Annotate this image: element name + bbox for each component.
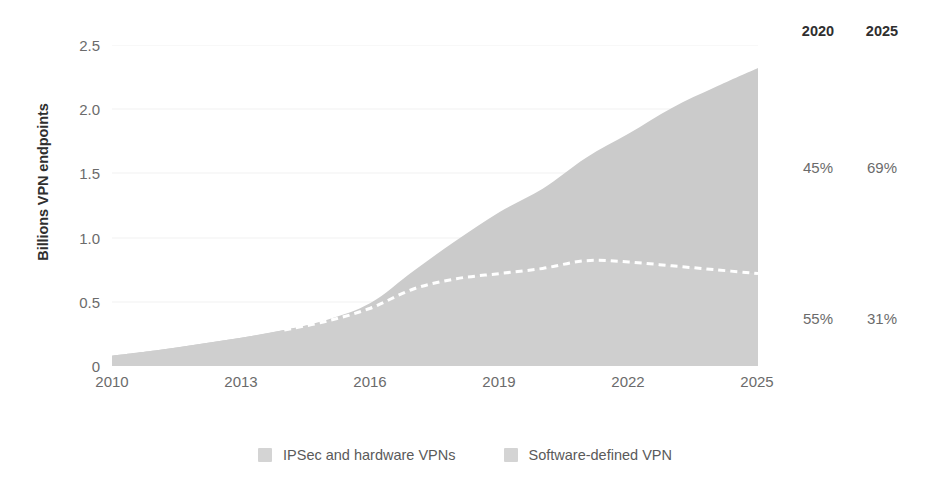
y-tick-label-2-0: 2.0 <box>56 102 100 117</box>
chart-canvas <box>112 45 758 366</box>
legend-item-ipsec-and-hardware-vpns[interactable]: IPSec and hardware VPNs <box>258 447 455 463</box>
chart-legend: IPSec and hardware VPNs Software-defined… <box>0 440 930 470</box>
share-table-header-2020: 2020 <box>792 23 844 39</box>
legend-item-software-defined-vpn[interactable]: Software-defined VPN <box>504 447 672 463</box>
share-value-software-defined-2020: 45% <box>792 159 844 176</box>
x-tick-label-2019: 2019 <box>482 374 515 389</box>
x-tick-label-2013: 2013 <box>224 374 257 389</box>
y-axis-title: Billions VPN endpoints <box>35 92 51 272</box>
legend-label-ipsec: IPSec and hardware VPNs <box>283 447 455 463</box>
x-tick-label-2025: 2025 <box>740 374 773 389</box>
share-value-ipsec-hardware-2025: 31% <box>856 310 908 327</box>
y-axis-tick-labels: 2.5 2.0 1.5 1.0 0.5 0 <box>56 0 100 490</box>
y-tick-label-1-5: 1.5 <box>56 166 100 181</box>
x-tick-label-2016: 2016 <box>353 374 386 389</box>
y-tick-label-0-5: 0.5 <box>56 295 100 310</box>
stacked-area-chart-figure: Billions VPN endpoints 2.5 2.0 1.5 1.0 0… <box>0 0 930 490</box>
share-value-ipsec-hardware-2020: 55% <box>792 310 844 327</box>
x-tick-label-2010: 2010 <box>95 374 128 389</box>
x-tick-label-2022: 2022 <box>611 374 644 389</box>
share-table-header-2025: 2025 <box>856 23 908 39</box>
legend-swatch-icon-ipsec <box>258 448 272 462</box>
legend-label-software-defined: Software-defined VPN <box>529 447 672 463</box>
legend-swatch-icon-software-defined <box>504 448 518 462</box>
y-tick-label-1-0: 1.0 <box>56 231 100 246</box>
y-tick-label-2-5: 2.5 <box>56 38 100 53</box>
plot-area <box>112 45 758 366</box>
y-tick-label-0: 0 <box>56 359 100 374</box>
share-annotation-table: 2020 2025 45% 69% 55% 31% <box>786 0 930 400</box>
share-value-software-defined-2025: 69% <box>856 159 908 176</box>
